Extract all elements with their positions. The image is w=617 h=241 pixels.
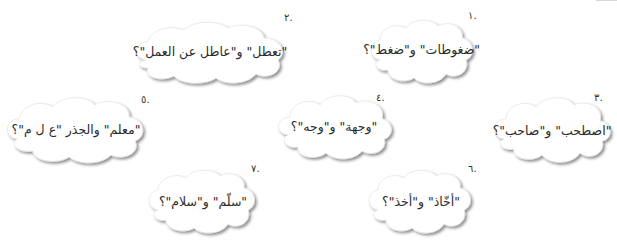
cloud-question-4: "وجهة" و"وجه"؟ <box>272 93 396 163</box>
item-number: .٤ <box>376 92 385 103</box>
item-number: .١ <box>468 10 477 21</box>
cloud-question-1: "ضغوطات" و"ضغط"؟ <box>366 16 480 88</box>
question-text: "وجهة" و"وجه"؟ <box>272 119 396 134</box>
question-text: "أخّاذ" و"أخذ"؟ <box>364 194 478 209</box>
cloud-question-2: "تعطل" و"عاطل عن العمل"؟ <box>128 20 292 88</box>
top-right-edge-line <box>596 0 617 1</box>
question-text: "اصطحب" و"صاحب"؟ <box>488 123 616 138</box>
item-number: .٥ <box>141 94 150 105</box>
item-number: .٢ <box>284 12 293 23</box>
cloud-question-6: "أخّاذ" و"أخذ"؟ <box>364 166 478 238</box>
item-number: .٦ <box>468 163 477 174</box>
question-text: "سلّم" و"سلام"؟ <box>144 194 262 209</box>
item-number: .٣ <box>594 92 603 103</box>
item-number: .٧ <box>251 163 260 174</box>
question-text: "ضغوطات" و"ضغط"؟ <box>366 42 480 57</box>
cloud-question-5: "معلم" والجذر "ع ل م"؟ <box>1 95 151 167</box>
cloud-question-7: "سلّم" و"سلام"؟ <box>144 166 262 238</box>
question-text: "معلم" والجذر "ع ل م"؟ <box>1 122 151 137</box>
cloud-question-3: "اصطحب" و"صاحب"؟ <box>488 93 616 167</box>
question-text: "تعطل" و"عاطل عن العمل"؟ <box>128 44 292 59</box>
